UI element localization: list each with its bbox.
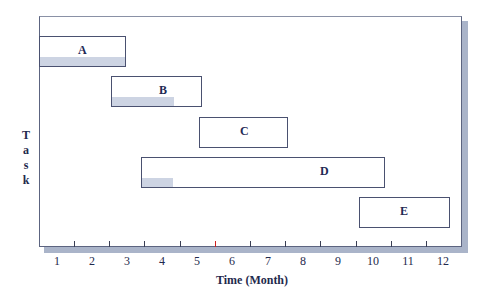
x-tick bbox=[180, 241, 181, 247]
task-label: C bbox=[240, 124, 249, 139]
y-title-letter: a bbox=[20, 143, 32, 158]
x-tick bbox=[285, 241, 286, 247]
x-tick-label: 2 bbox=[82, 254, 102, 269]
x-tick-label: 12 bbox=[433, 254, 453, 269]
task-bar-c: C bbox=[199, 117, 288, 148]
x-tick-label: 7 bbox=[258, 254, 278, 269]
task-bar-d: D bbox=[141, 157, 385, 188]
task-label: E bbox=[400, 204, 408, 219]
x-tick-label: 5 bbox=[187, 254, 207, 269]
task-bar-b: B bbox=[111, 76, 202, 107]
x-tick-label: 11 bbox=[398, 254, 418, 269]
task-label: D bbox=[320, 164, 329, 179]
task-label: B bbox=[159, 83, 167, 98]
x-tick bbox=[356, 241, 357, 247]
progress-fill bbox=[142, 178, 173, 187]
x-tick-label: 9 bbox=[328, 254, 348, 269]
x-tick-label: 3 bbox=[117, 254, 137, 269]
x-tick bbox=[426, 241, 427, 247]
y-axis-title: T a s k bbox=[20, 128, 32, 188]
x-tick bbox=[109, 241, 110, 247]
x-tick-label: 10 bbox=[363, 254, 383, 269]
x-tick bbox=[391, 241, 392, 247]
x-tick bbox=[320, 241, 321, 247]
task-bar-a: A bbox=[39, 36, 126, 67]
x-tick-label: 1 bbox=[47, 254, 67, 269]
task-label: A bbox=[78, 43, 87, 58]
x-tick-label: 6 bbox=[222, 254, 242, 269]
y-title-letter: k bbox=[20, 173, 32, 188]
x-tick bbox=[74, 241, 75, 247]
x-axis-title: Time (Month) bbox=[0, 273, 482, 288]
x-tick bbox=[144, 241, 145, 247]
x-tick bbox=[250, 241, 251, 247]
progress-fill bbox=[112, 97, 174, 106]
y-title-letter: s bbox=[20, 158, 32, 173]
progress-fill bbox=[40, 57, 125, 66]
x-tick-label: 8 bbox=[293, 254, 313, 269]
x-tick-highlight bbox=[215, 241, 216, 247]
y-title-letter: T bbox=[20, 128, 32, 143]
task-bar-e: E bbox=[359, 197, 450, 228]
x-tick-label: 4 bbox=[152, 254, 172, 269]
